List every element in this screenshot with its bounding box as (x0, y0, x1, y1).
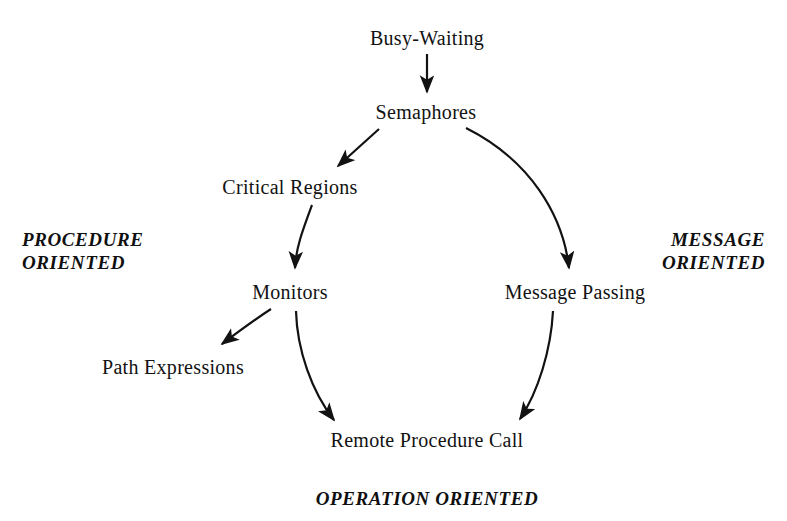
edge-critical-regions-to-monitors (295, 205, 312, 268)
category-operation-oriented-line1: OPERATION ORIENTED (316, 487, 538, 510)
node-monitors: Monitors (252, 282, 328, 302)
edge-semaphores-to-message-passing (466, 128, 569, 268)
category-procedure-oriented-line1: PROCEDURE (22, 228, 144, 251)
node-message-passing: Message Passing (505, 282, 646, 302)
category-message-oriented-line2: ORIENTED (662, 251, 765, 274)
edge-monitors-to-path-expressions (222, 309, 271, 344)
category-procedure-oriented-line2: ORIENTED (22, 251, 144, 274)
node-busy-waiting: Busy-Waiting (370, 28, 484, 48)
category-message-oriented: MESSAGE ORIENTED (662, 228, 765, 274)
category-operation-oriented: OPERATION ORIENTED (316, 487, 538, 510)
node-path-expressions: Path Expressions (102, 357, 244, 377)
edge-message-passing-to-remote-procedure-call (520, 311, 553, 419)
edge-monitors-to-remote-procedure-call (296, 311, 334, 420)
node-semaphores: Semaphores (376, 102, 477, 122)
edge-semaphores-to-critical-regions (338, 129, 379, 166)
category-procedure-oriented: PROCEDURE ORIENTED (22, 228, 144, 274)
node-critical-regions: Critical Regions (222, 177, 357, 197)
node-remote-procedure-call: Remote Procedure Call (331, 430, 524, 450)
category-message-oriented-line1: MESSAGE (662, 228, 765, 251)
